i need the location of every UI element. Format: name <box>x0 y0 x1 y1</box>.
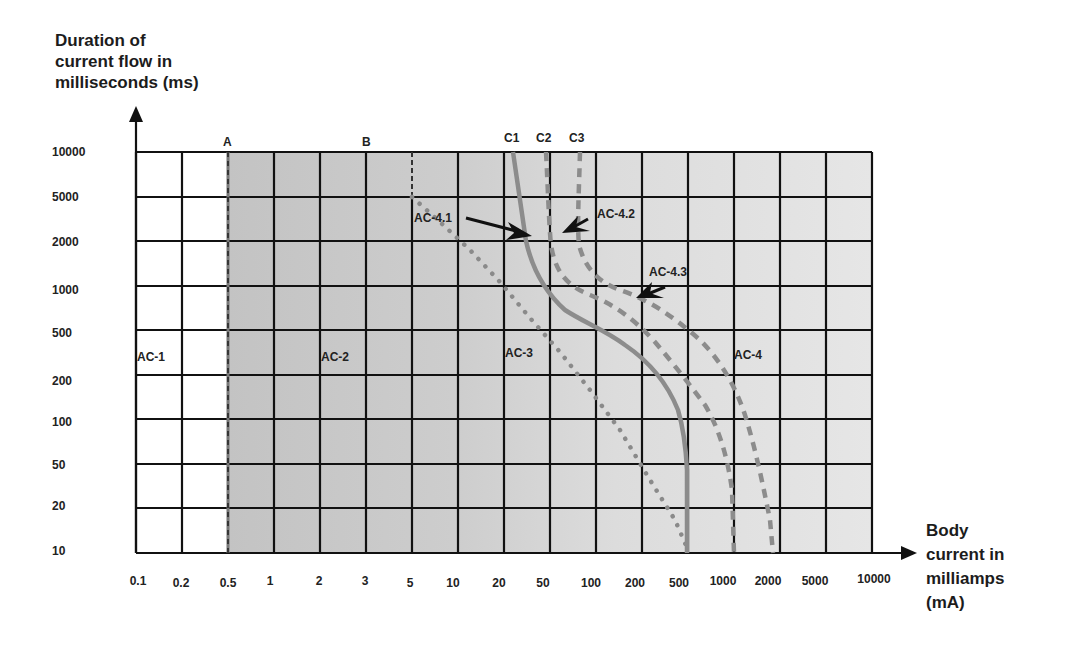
y-tick-label: 1000 <box>52 283 79 297</box>
x-tick-label: 5 <box>387 576 433 590</box>
x-tick-label: 500 <box>656 576 702 590</box>
zone-label-ac43: AC-4.3 <box>649 265 687 279</box>
x-tick-label: 0.1 <box>115 574 161 588</box>
x-axis-title-line: (mA) <box>926 591 1004 615</box>
y-axis-title-line: milliseconds (ms) <box>55 72 199 93</box>
x-axis-title: Body current in milliamps (mA) <box>926 519 1004 615</box>
x-tick-label: 0.2 <box>158 576 204 590</box>
y-tick-label: 10 <box>52 544 65 558</box>
x-axis-title-line: current in <box>926 543 1004 567</box>
x-tick-label: 5000 <box>792 574 838 588</box>
zone-label-ac4: AC-4 <box>734 348 762 362</box>
chart-canvas <box>0 0 1078 652</box>
x-tick-label: 100 <box>568 576 614 590</box>
x-tick-label: 3 <box>342 574 388 588</box>
curve-label-a: A <box>223 135 232 149</box>
zone-label-ac3: AC-3 <box>505 346 533 360</box>
zone-label-ac41: AC-4.1 <box>414 211 452 225</box>
y-tick-label: 10000 <box>52 145 85 159</box>
x-tick-label: 2 <box>296 574 342 588</box>
x-tick-label: 1 <box>247 574 293 588</box>
curve-label-c1: C1 <box>504 131 519 145</box>
x-tick-label: 1000 <box>700 574 746 588</box>
y-tick-label: 200 <box>52 374 72 388</box>
y-axis-title-line: current flow in <box>55 51 199 72</box>
zone-label-ac2: AC-2 <box>321 350 349 364</box>
x-axis-title-line: milliamps <box>926 567 1004 591</box>
y-tick-label: 20 <box>52 499 65 513</box>
x-tick-label: 0.5 <box>205 576 251 590</box>
x-tick-label: 20 <box>476 576 522 590</box>
curve-label-c2: C2 <box>536 131 551 145</box>
curve-label-c3: C3 <box>569 131 584 145</box>
x-tick-label: 50 <box>520 576 566 590</box>
y-tick-label: 500 <box>52 326 72 340</box>
curve-label-b: B <box>362 135 371 149</box>
x-tick-label: 2000 <box>745 574 791 588</box>
x-axis-arrow-icon <box>901 546 917 560</box>
x-tick-label: 10000 <box>844 572 904 586</box>
zone-label-ac1: AC-1 <box>137 350 165 364</box>
zone-label-ac42: AC-4.2 <box>597 207 635 221</box>
y-tick-label: 100 <box>52 415 72 429</box>
y-tick-label: 5000 <box>52 190 79 204</box>
y-tick-label: 2000 <box>52 235 79 249</box>
x-tick-label: 200 <box>612 576 658 590</box>
y-axis-title: Duration of current flow in milliseconds… <box>55 30 199 93</box>
x-axis-title-line: Body <box>926 519 1004 543</box>
x-tick-label: 10 <box>430 576 476 590</box>
y-axis-title-line: Duration of <box>55 30 199 51</box>
y-tick-label: 50 <box>52 458 65 472</box>
y-axis-arrow-icon <box>129 106 143 122</box>
